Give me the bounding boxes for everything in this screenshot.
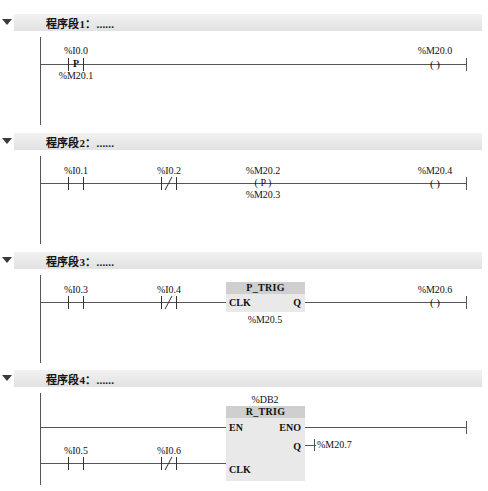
network-1-header[interactable]: 程序段1：...... xyxy=(14,14,482,31)
pin-eno[interactable]: ENO xyxy=(279,422,301,433)
coil-label: %M20.0 xyxy=(418,45,453,56)
network-2-title: 程序段2：...... xyxy=(14,134,114,150)
output-coil[interactable]: ( ) xyxy=(425,176,445,190)
contact-label-bottom: %M20.1 xyxy=(59,70,94,81)
network-3-title: 程序段3：...... xyxy=(14,253,114,269)
network-2-header[interactable]: 程序段2：...... xyxy=(14,133,482,150)
network-3-rung: %I0.3 %I0.4 P_TRIG CLK Q %M20.5 %M20.6 (… xyxy=(0,269,488,368)
p-trig-instance-label: %M20.5 xyxy=(248,314,283,325)
contact-no-label: %I0.3 xyxy=(64,284,88,295)
p-trig-block[interactable]: P_TRIG CLK Q xyxy=(226,282,305,312)
right-power-rail xyxy=(466,296,467,309)
contact-normally-closed[interactable] xyxy=(161,177,177,190)
network-3-header[interactable]: 程序段3：...... xyxy=(14,252,482,269)
coil-out-label: %M20.4 xyxy=(418,165,453,176)
p-trig-block-body: CLK Q xyxy=(226,294,305,312)
network-4-header[interactable]: 程序段4：...... xyxy=(14,370,482,387)
output-coil[interactable]: ( ) xyxy=(425,57,445,71)
contact-nc-label: %I0.4 xyxy=(157,284,181,295)
contact-nc-label: %I0.2 xyxy=(157,165,181,176)
contact-label-top: %I0.0 xyxy=(64,45,88,56)
q-target-label: %M20.7 xyxy=(317,439,352,450)
contact-normally-open[interactable] xyxy=(68,457,84,470)
network-4-title: 程序段4：...... xyxy=(14,371,114,387)
r-trig-block-body: EN ENO Q CLK xyxy=(226,418,305,481)
network-4-rung: %I0.5 %I0.6 %DB2 R_TRIG EN ENO Q CLK xyxy=(0,387,488,491)
db-instance-label: %DB2 xyxy=(251,394,278,405)
right-power-rail xyxy=(466,421,467,434)
left-power-rail xyxy=(40,393,41,485)
triangle-down-icon[interactable] xyxy=(2,138,12,144)
eno-output-wire xyxy=(305,427,466,428)
right-power-rail xyxy=(466,177,467,190)
en-branch-wire xyxy=(40,427,226,428)
coil-p-label-top: %M20.2 xyxy=(246,165,281,176)
contact-no-label: %I0.5 xyxy=(64,445,88,456)
r-trig-block-title: R_TRIG xyxy=(226,406,305,418)
network-4: 程序段4：...... %I0.5 %I0.6 %DB2 R_TRIG xyxy=(0,370,488,491)
r-trig-block[interactable]: R_TRIG EN ENO Q CLK xyxy=(226,406,305,481)
pin-clk[interactable]: CLK xyxy=(229,464,251,475)
contact-normally-open[interactable] xyxy=(68,177,84,190)
left-power-rail xyxy=(40,156,41,244)
contact-normally-closed[interactable] xyxy=(161,296,177,309)
output-coil[interactable]: ( ) xyxy=(425,295,445,309)
contact-normally-open[interactable] xyxy=(68,296,84,309)
contact-nc-label: %I0.6 xyxy=(157,445,181,456)
right-power-rail xyxy=(466,58,467,71)
coil-p-label-bottom: %M20.3 xyxy=(246,189,281,200)
network-2-rung: %I0.1 %I0.2 %M20.2 ( P ) %M20.3 %M20.4 (… xyxy=(0,150,488,249)
network-1-rung: %I0.0 P %M20.1 %M20.0 ( ) xyxy=(0,31,488,130)
rung-wire xyxy=(40,64,466,65)
pin-clk[interactable]: CLK xyxy=(229,297,251,308)
triangle-down-icon[interactable] xyxy=(2,375,12,381)
coil-out-label: %M20.6 xyxy=(418,284,453,295)
rung-wire xyxy=(40,183,466,184)
network-1: 程序段1：...... %I0.0 P %M20.1 %M20.0 ( ) xyxy=(0,14,488,130)
pin-q[interactable]: Q xyxy=(293,297,301,308)
network-2: 程序段2：...... %I0.1 %I0.2 %M20.2 ( P ) %M2… xyxy=(0,133,488,249)
pin-en[interactable]: EN xyxy=(229,422,243,433)
p-trig-block-title: P_TRIG xyxy=(226,282,305,294)
contact-glyph: P xyxy=(73,58,79,69)
network-3: 程序段3：...... %I0.3 %I0.4 P_TRIG CLK Q xyxy=(0,252,488,368)
left-power-rail xyxy=(40,275,41,363)
contact-no-label: %I0.1 xyxy=(64,165,88,176)
network-1-title: 程序段1：...... xyxy=(14,15,114,31)
triangle-down-icon[interactable] xyxy=(2,19,12,25)
contact-normally-closed[interactable] xyxy=(161,457,177,470)
q-output-terminal xyxy=(314,439,315,451)
coil-p-glyph[interactable]: ( P ) xyxy=(255,177,272,188)
pin-q[interactable]: Q xyxy=(293,441,301,452)
left-power-rail xyxy=(40,37,41,125)
triangle-down-icon[interactable] xyxy=(2,257,12,263)
